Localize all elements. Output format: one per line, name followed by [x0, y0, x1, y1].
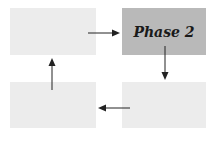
arrow-left-icon: [98, 105, 130, 112]
arrow-right-icon: [88, 30, 120, 37]
arrow-up-icon: [49, 58, 56, 90]
cycle-arrows: [0, 0, 222, 144]
arrow-down-icon: [162, 46, 169, 80]
